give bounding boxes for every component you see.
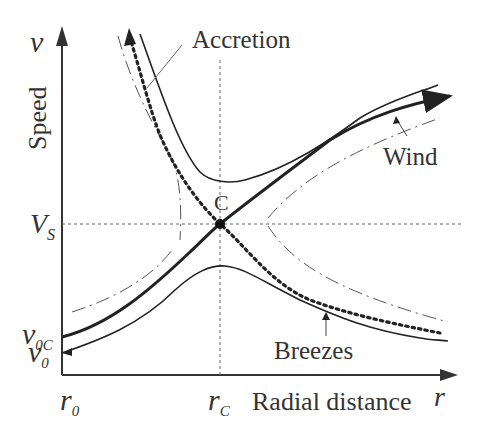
x-axis-symbol: r — [434, 381, 445, 412]
wind-curve — [62, 96, 450, 337]
diagram-canvas: v Speed VS v0C v0 r0 rC Radial distance … — [0, 0, 485, 429]
outer-curve-lower-right — [268, 226, 448, 322]
accretion-label: Accretion — [192, 26, 291, 53]
y-axis-symbol: v — [30, 25, 44, 58]
x-axis-label: Radial distance — [252, 387, 412, 416]
breezes-label: Breezes — [274, 337, 353, 364]
x-tick-rc: rC — [208, 383, 231, 419]
critical-point-marker — [215, 219, 225, 229]
critical-point-label: C — [214, 190, 229, 215]
y-axis-label: Speed — [23, 86, 52, 150]
y-tick-vs: VS — [30, 208, 55, 243]
y-axis — [56, 26, 68, 375]
outer-curve-upper-left — [118, 36, 181, 240]
wind-leader-arrow-icon — [393, 116, 400, 124]
accretion-arrow-icon — [124, 28, 136, 46]
x-tick-r0: r0 — [60, 383, 80, 419]
x-axis — [62, 369, 458, 381]
wind-label: Wind — [383, 143, 438, 170]
